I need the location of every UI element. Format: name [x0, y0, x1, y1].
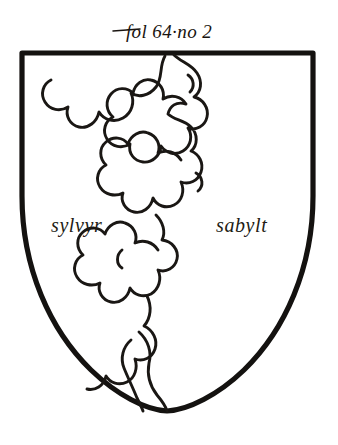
heraldic-plate: fol 64·no 2 sylvyr sabylt — [0, 0, 338, 445]
folio-label: fol 64·no 2 — [126, 21, 212, 42]
tincture-label-right: sabylt — [216, 214, 267, 237]
shield-drawing: fol 64·no 2 sylvyr sabylt — [0, 0, 338, 445]
folio-annotation: fol 64·no 2 — [113, 21, 212, 42]
tincture-label-left: sylvyr — [51, 214, 102, 237]
